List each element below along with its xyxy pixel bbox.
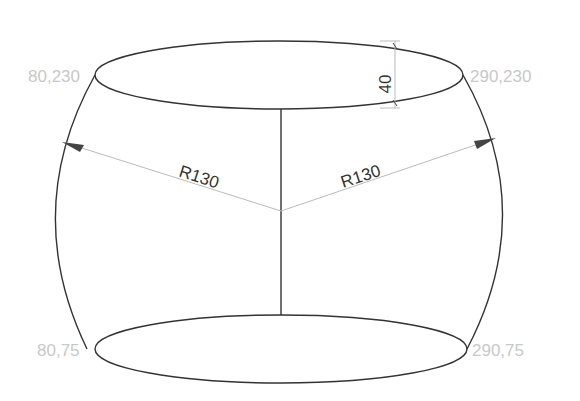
coord-bottom-left: 80,75 bbox=[37, 341, 80, 360]
radius-line-right bbox=[281, 139, 493, 211]
left-arc bbox=[55, 75, 95, 349]
coord-top-right: 290,230 bbox=[470, 67, 531, 86]
height-dim-label: 40 bbox=[376, 75, 395, 94]
coord-top-left: 80,230 bbox=[28, 67, 80, 86]
top-ellipse bbox=[95, 41, 463, 109]
right-arc bbox=[463, 75, 503, 349]
bottom-ellipse bbox=[95, 315, 467, 383]
radius-line-left bbox=[66, 143, 281, 211]
radius-label-left: R130 bbox=[177, 162, 222, 193]
barrel-diagram: 40 R130 R130 80,230 290,230 80,75 290,75 bbox=[0, 0, 580, 401]
coord-bottom-right: 290,75 bbox=[472, 341, 524, 360]
radius-label-right: R130 bbox=[338, 161, 383, 192]
